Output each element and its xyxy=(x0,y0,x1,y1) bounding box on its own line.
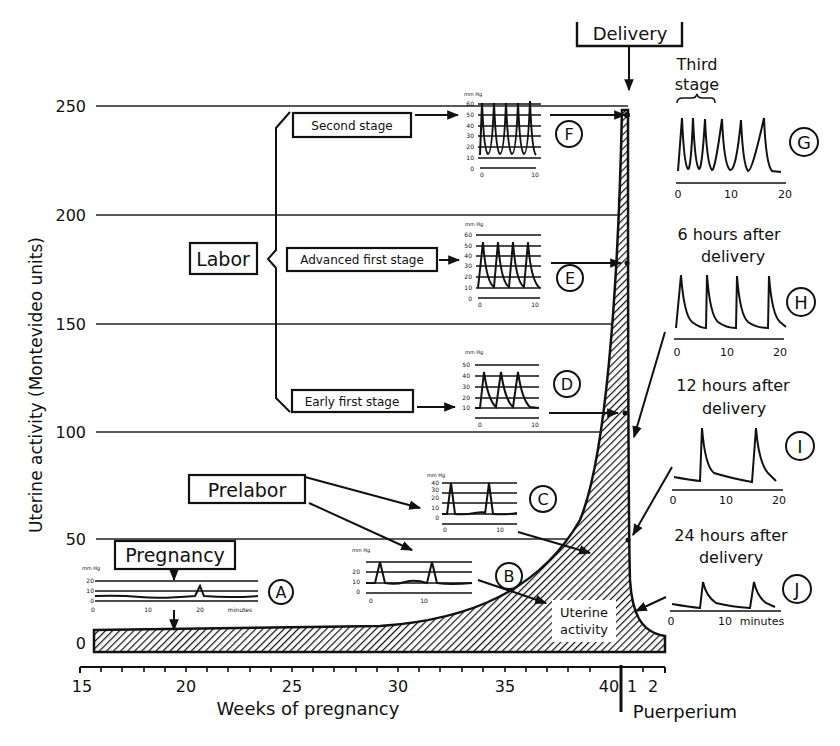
svg-text:0: 0 xyxy=(478,421,482,428)
svg-text:6 hours after: 6 hours after xyxy=(677,225,781,244)
panel-f-letter: F xyxy=(556,121,582,147)
svg-text:10: 10 xyxy=(86,587,94,594)
svg-text:0: 0 xyxy=(668,615,675,628)
svg-text:20: 20 xyxy=(778,188,792,201)
svg-text:0: 0 xyxy=(435,514,439,521)
svg-text:20: 20 xyxy=(431,494,439,501)
svg-text:10: 10 xyxy=(466,154,474,161)
panel-g-title: Third stage xyxy=(675,55,719,103)
panel-a-letter: A xyxy=(269,580,293,604)
svg-text:10: 10 xyxy=(496,526,504,533)
svg-text:10: 10 xyxy=(420,597,428,604)
svg-text:H: H xyxy=(794,292,808,313)
y-tick-50: 50 xyxy=(66,530,86,549)
svg-text:20: 20 xyxy=(466,143,474,150)
panel-h-title: 6 hours after delivery xyxy=(677,225,781,266)
svg-text:0: 0 xyxy=(674,346,681,359)
svg-text:10: 10 xyxy=(144,606,152,613)
svg-text:30: 30 xyxy=(431,486,439,493)
svg-text:stage: stage xyxy=(675,75,719,94)
y-tick-200: 200 xyxy=(55,206,86,225)
y-tick-0: 0 xyxy=(76,634,86,653)
x-tick-20: 20 xyxy=(176,677,196,696)
svg-text:50: 50 xyxy=(462,361,470,368)
svg-text:0: 0 xyxy=(670,494,677,507)
svg-text:0: 0 xyxy=(91,606,95,613)
svg-text:60: 60 xyxy=(466,100,474,107)
x-tick-15: 15 xyxy=(72,677,92,696)
svg-text:40: 40 xyxy=(462,372,470,379)
figure-canvas: Uterine activity (Montevideo units) 250 … xyxy=(0,0,840,746)
x-tick-labels: 15 20 25 30 35 40 1 2 xyxy=(72,677,658,696)
svg-text:A: A xyxy=(276,583,287,602)
panel-b-trace: mm Hg 20 10 0 0 10 xyxy=(352,547,472,604)
svg-text:0: 0 xyxy=(369,597,373,604)
x-tick-p1: 1 xyxy=(627,677,637,696)
x-tick-35: 35 xyxy=(495,677,515,696)
x-tick-30: 30 xyxy=(388,677,408,696)
svg-text:Pregnancy: Pregnancy xyxy=(125,544,225,566)
panel-c-trace: mm Hg 40 30 20 10 0 0 10 xyxy=(427,472,517,533)
svg-text:delivery: delivery xyxy=(702,399,766,418)
svg-text:10: 10 xyxy=(724,188,738,201)
svg-text:40: 40 xyxy=(466,122,474,129)
delivery-label: Delivery xyxy=(577,22,682,90)
panel-i-title: 12 hours after delivery xyxy=(676,376,790,418)
panel-b-letter: B xyxy=(496,563,522,589)
svg-text:F: F xyxy=(564,125,573,144)
svg-text:20: 20 xyxy=(86,577,94,584)
svg-text:0: 0 xyxy=(480,171,484,178)
panel-e-trace: mm Hg 60 50 40 30 20 10 0 0 10 xyxy=(464,221,541,308)
svg-text:30: 30 xyxy=(466,132,474,139)
svg-text:50: 50 xyxy=(464,242,472,249)
svg-text:0: 0 xyxy=(356,588,360,595)
svg-text:Early first stage: Early first stage xyxy=(305,395,400,409)
svg-text:20: 20 xyxy=(772,494,786,507)
svg-text:0: 0 xyxy=(675,188,682,201)
panel-i-letter: I xyxy=(786,432,814,460)
x-tick-40: 40 xyxy=(599,677,619,696)
svg-text:Advanced first stage: Advanced first stage xyxy=(300,253,424,267)
svg-text:12 hours after: 12 hours after xyxy=(676,376,790,395)
early-first-stage-group: Early first stage xyxy=(292,390,455,412)
panel-c-letter: C xyxy=(530,486,556,512)
panel-a-trace: mm Hg 20 10 0 0 10 20 minutes xyxy=(82,565,258,613)
panel-j-trace: 0 10 minutes xyxy=(668,582,785,628)
svg-text:mm Hg: mm Hg xyxy=(82,565,100,572)
svg-text:Second stage: Second stage xyxy=(311,119,392,133)
gridlines xyxy=(96,106,628,539)
panel-f-trace: mm Hg 60 50 40 30 20 10 0 0 10 xyxy=(464,91,541,178)
svg-text:10: 10 xyxy=(352,578,360,585)
panel-j-letter: J xyxy=(783,575,811,603)
svg-text:30: 30 xyxy=(464,262,472,269)
y-tick-250: 250 xyxy=(55,97,86,116)
second-stage-group: Second stage xyxy=(293,113,458,137)
panel-i-trace: 0 10 20 xyxy=(670,428,787,507)
panel-j-arrow xyxy=(636,597,666,611)
svg-text:mm Hg: mm Hg xyxy=(465,221,483,228)
x-tick-p2: 2 xyxy=(648,677,658,696)
svg-text:J: J xyxy=(793,579,799,600)
svg-text:0: 0 xyxy=(90,597,94,604)
svg-text:0: 0 xyxy=(478,301,482,308)
uterine-activity-figure: Uterine activity (Montevideo units) 250 … xyxy=(0,0,840,746)
svg-text:10: 10 xyxy=(431,504,439,511)
svg-text:minutes: minutes xyxy=(228,606,252,613)
uterine-activity-label-1: Uterine xyxy=(560,605,608,620)
svg-text:10: 10 xyxy=(718,615,732,628)
labor-group: Labor xyxy=(190,112,290,412)
svg-text:24 hours after: 24 hours after xyxy=(674,526,788,545)
svg-text:mm Hg: mm Hg xyxy=(427,472,445,479)
panel-d-letter: D xyxy=(554,371,580,397)
svg-text:I: I xyxy=(797,436,802,457)
y-tick-150: 150 xyxy=(55,315,86,334)
svg-text:40: 40 xyxy=(431,479,439,486)
svg-text:E: E xyxy=(565,269,575,288)
panel-h-trace: 0 10 20 xyxy=(674,275,788,359)
panel-h-letter: H xyxy=(787,288,815,316)
svg-text:30: 30 xyxy=(462,383,470,390)
svg-text:0: 0 xyxy=(443,526,447,533)
svg-text:40: 40 xyxy=(464,252,472,259)
panel-i-arrow xyxy=(633,467,672,535)
svg-text:delivery: delivery xyxy=(699,548,763,567)
